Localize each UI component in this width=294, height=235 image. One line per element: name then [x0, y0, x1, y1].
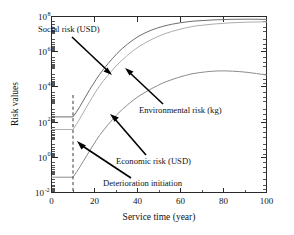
y-tick-base-1e-2: 10	[35, 188, 45, 198]
x-tick-label-0: 0	[49, 196, 54, 206]
y-tick-label-1e0: 10 0	[38, 150, 51, 163]
annotation-deterioration-initiation: Deterioration initiation	[103, 178, 183, 188]
series-paths	[52, 19, 267, 177]
x-tick-label-40: 40	[133, 196, 143, 206]
x-tick-label-20: 20	[90, 196, 100, 206]
y-tick-base-1e4: 10	[38, 82, 48, 92]
chart-canvas: 0 20 40 60 80 100 10 8 10 6 10 4 10 2	[0, 0, 294, 235]
y-tick-exp-1e2: 2	[48, 115, 51, 122]
y-tick-label-1e-2: 10 -2	[35, 186, 50, 199]
risk-values-chart-figure: 0 20 40 60 80 100 10 8 10 6 10 4 10 2	[0, 0, 294, 235]
annotation-social-risk: Social risk (USD)	[38, 24, 100, 34]
arrow-economic-risk	[110, 114, 146, 155]
arrow-social-risk	[72, 37, 112, 75]
y-tick-base-1e8: 10	[38, 12, 48, 22]
y-tick-exp-1e0: 0	[48, 150, 51, 157]
y-tick-label-1e6: 10 6	[38, 45, 51, 58]
y-tick-exp-1e4: 4	[48, 80, 51, 87]
annotation-economic-risk: Economic risk (USD)	[116, 156, 191, 166]
x-tick-label-80: 80	[219, 196, 229, 206]
y-tick-label-1e4: 10 4	[38, 80, 51, 93]
y-tick-label-1e8: 10 8	[38, 10, 51, 23]
x-tick-labels: 0 20 40 60 80 100	[49, 196, 274, 206]
y-tick-base-1e2: 10	[38, 118, 48, 128]
y-tick-exp-1e-2: -2	[45, 186, 50, 193]
x-tick-label-100: 100	[260, 196, 274, 206]
y-tick-exp-1e8: 8	[48, 10, 51, 17]
x-axis-title: Service time (year)	[123, 212, 196, 223]
y-tick-labels: 10 8 10 6 10 4 10 2 10 0 10 -2	[35, 10, 51, 199]
x-tick-label-60: 60	[176, 196, 186, 206]
y-tick-exp-1e6: 6	[48, 45, 51, 52]
y-axis-title: Risk values	[10, 82, 20, 126]
y-tick-base-1e6: 10	[38, 47, 48, 57]
annotation-environmental-risk: Environmental risk (kg)	[139, 105, 222, 115]
y-tick-base-1e0: 10	[38, 153, 48, 163]
y-tick-label-1e2: 10 2	[38, 115, 51, 128]
